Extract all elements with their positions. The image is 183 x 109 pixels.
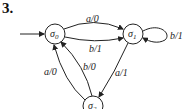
transition-s0-s1-b <box>65 37 123 41</box>
label-b1-mid: b/1 <box>89 43 102 54</box>
label-a1: a/1 <box>115 67 128 78</box>
state-s1: σ1 <box>123 24 143 44</box>
label-a0-top: a/0 <box>86 13 99 24</box>
transition-s1-self <box>143 28 167 42</box>
state-diagram: σ0 σ1 σ2 a/0 b/1 b/1 a/1 a/0 b/0 <box>0 0 183 109</box>
label-b0: b/0 <box>83 61 96 72</box>
label-a0-left: a/0 <box>44 66 57 77</box>
state-s0: σ0 <box>45 24 65 44</box>
transition-s2-s0-a <box>54 45 85 100</box>
label-b1-loop: b/1 <box>170 30 183 41</box>
state-s2: σ2 <box>83 96 103 109</box>
